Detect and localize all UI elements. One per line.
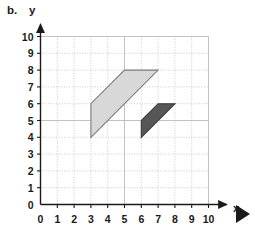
plotted-shapes — [91, 70, 175, 137]
play-triangle-icon — [236, 205, 250, 223]
y-tick-label: 1 — [18, 183, 34, 194]
x-tick-label: 5 — [117, 214, 133, 225]
x-tick-label: 1 — [49, 214, 65, 225]
y-tick-label: 3 — [18, 149, 34, 160]
x-tick-label: 7 — [150, 214, 166, 225]
y-tick-label: 5 — [18, 116, 34, 127]
x-tick-label: 6 — [133, 214, 149, 225]
x-tick-label: 9 — [184, 214, 200, 225]
y-tick-label: 6 — [18, 99, 34, 110]
coordinate-plane — [0, 0, 255, 237]
y-tick-label: 10 — [18, 32, 34, 43]
y-tick-label: 4 — [18, 132, 34, 143]
x-tick-label: 10 — [201, 214, 217, 225]
y-tick-label: 0 — [18, 200, 34, 211]
x-tick-label: 0 — [33, 214, 49, 225]
x-tick-label: 2 — [66, 214, 82, 225]
x-tick-label: 8 — [167, 214, 183, 225]
y-tick-label: 8 — [18, 65, 34, 76]
figure-panel: b. y x 012345678910 012345678910 — [0, 0, 255, 237]
y-tick-label: 2 — [18, 166, 34, 177]
x-tick-label: 3 — [83, 214, 99, 225]
y-tick-label: 9 — [18, 48, 34, 59]
x-tick-label: 4 — [100, 214, 116, 225]
y-tick-label: 7 — [18, 82, 34, 93]
